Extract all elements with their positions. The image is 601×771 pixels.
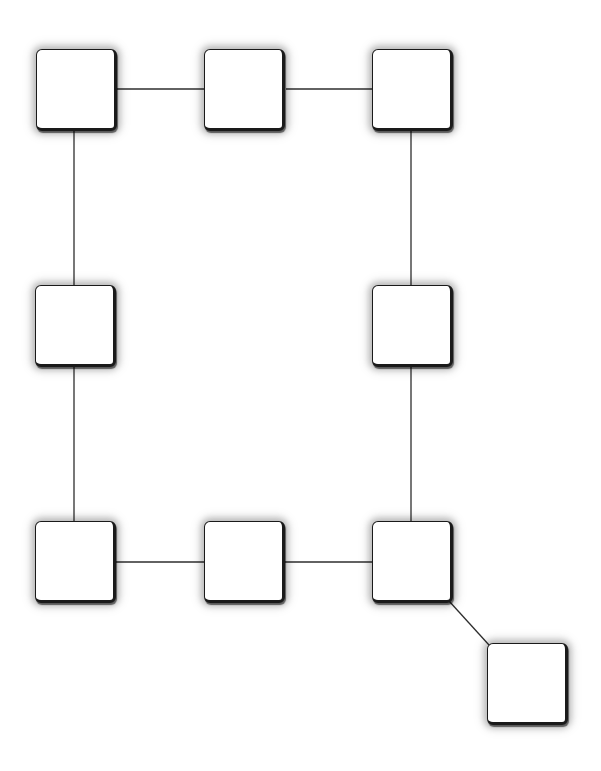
diagram-node-n8 [372,521,453,603]
diagram-node-n4 [35,285,116,367]
diagram-node-n7 [204,521,285,603]
diagram-node-n1 [36,49,117,131]
diagram-node-n2 [204,49,285,131]
connector-line-n8-n9 [449,601,489,645]
diagram-node-n3 [372,49,453,131]
diagram-node-n6 [35,521,116,603]
diagram-canvas [0,0,601,771]
diagram-node-n5 [372,285,453,367]
diagram-node-n9 [487,643,568,725]
